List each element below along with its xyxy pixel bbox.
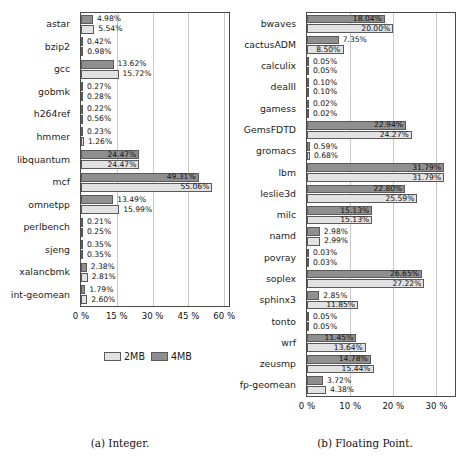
figure-root: astar4.98%5.54%bzip20.42%0.98%gcc13.62%1… xyxy=(0,0,473,468)
category-label-libquantum: libquantum xyxy=(0,154,75,166)
bar-4mb-omnetpp xyxy=(81,195,113,204)
category-label-leslie3d: leslie3d xyxy=(232,188,301,200)
category-label-cactusadm: cactusADM xyxy=(232,39,301,51)
value-label-2mb-dealii: 0.10% xyxy=(311,87,337,97)
bar-2mb-tonto xyxy=(307,322,309,331)
value-label-2mb-milc: 15.13% xyxy=(338,215,369,225)
bar-2mb-int-geomean xyxy=(81,295,87,304)
value-label-4mb-calculix: 0.05% xyxy=(311,57,337,67)
category-label-astar: astar xyxy=(0,18,75,30)
value-label-4mb-gobmk: 0.27% xyxy=(85,82,111,92)
value-label-2mb-leslie3d: 25.59% xyxy=(383,194,414,204)
bar-4mb-calculix xyxy=(307,57,309,66)
category-label-xalancbmk: xalancbmk xyxy=(0,266,75,278)
value-label-2mb-libquantum: 24.47% xyxy=(105,160,136,170)
category-label-fp-geomean: fp-geomean xyxy=(232,379,301,391)
value-label-4mb-gamess: 0.02% xyxy=(311,99,337,109)
x-tick-10: 10 % xyxy=(339,401,361,411)
category-label-sphinx3: sphinx3 xyxy=(232,294,301,306)
value-label-4mb-cactusadm: 7.35% xyxy=(341,35,367,45)
bar-2mb-hmmer xyxy=(81,137,84,146)
category-label-hmmer: hmmer xyxy=(0,131,75,143)
bar-2mb-calculix xyxy=(307,67,309,76)
value-label-2mb-gamess: 0.02% xyxy=(311,109,337,119)
value-label-2mb-bzip2: 0.98% xyxy=(85,47,111,57)
value-label-4mb-fp-geomean: 3.72% xyxy=(325,376,351,386)
bar-4mb-gamess xyxy=(307,100,309,109)
bar-4mb-gcc xyxy=(81,60,114,69)
category-label-gcc: gcc xyxy=(0,63,75,75)
bar-4mb-sjeng xyxy=(81,240,83,249)
value-label-2mb-wrf: 13.64% xyxy=(332,343,363,353)
bar-4mb-tonto xyxy=(307,312,309,321)
bar-2mb-povray xyxy=(307,258,309,267)
bar-2mb-astar xyxy=(81,25,94,34)
category-label-gemsfdtd: GemsFDTD xyxy=(232,124,301,136)
value-label-2mb-h264ref: 0.56% xyxy=(85,114,111,124)
value-label-2mb-int-geomean: 2.60% xyxy=(89,295,115,305)
value-label-2mb-zeusmp: 15.44% xyxy=(340,364,371,374)
bar-4mb-bzip2 xyxy=(81,37,83,46)
value-label-4mb-gromacs: 0.59% xyxy=(312,142,338,152)
value-label-2mb-calculix: 0.05% xyxy=(311,66,337,76)
bar-2mb-bzip2 xyxy=(81,47,83,56)
category-label-dealii: dealII xyxy=(232,81,301,93)
value-label-2mb-povray: 0.03% xyxy=(311,258,337,268)
value-label-4mb-sphinx3: 2.85% xyxy=(321,291,347,301)
caption-floating-point: (b) Floating Point. xyxy=(300,437,430,449)
bar-4mb-h264ref xyxy=(81,105,83,114)
value-label-2mb-xalancbmk: 2.81% xyxy=(90,272,116,282)
caption-integer: (a) Integer. xyxy=(60,437,180,449)
value-label-2mb-gcc: 15.72% xyxy=(121,69,152,79)
legend-item-2mb: 2MB xyxy=(104,351,145,362)
bar-4mb-dealii xyxy=(307,78,309,87)
chart-integer: astar4.98%5.54%bzip20.42%0.98%gcc13.62%1… xyxy=(0,0,232,430)
x-tick-20: 20 % xyxy=(382,401,404,411)
category-label-gobmk: gobmk xyxy=(0,86,75,98)
value-label-2mb-mcf: 55.06% xyxy=(178,182,209,192)
value-label-2mb-cactusadm: 8.50% xyxy=(314,45,340,55)
gridline xyxy=(224,13,225,306)
value-label-2mb-omnetpp: 15.99% xyxy=(121,205,152,215)
bar-2mb-sjeng xyxy=(81,250,83,259)
value-label-4mb-dealii: 0.10% xyxy=(311,78,337,88)
value-label-4mb-libquantum: 24.47% xyxy=(105,150,136,160)
value-label-2mb-gemsfdtd: 24.27% xyxy=(378,130,409,140)
x-tick-45: 45 % xyxy=(177,311,199,321)
category-label-bzip2: bzip2 xyxy=(0,41,75,53)
bar-2mb-xalancbmk xyxy=(81,273,88,282)
legend: 2MB 4MB xyxy=(104,351,192,362)
x-tick-30: 30 % xyxy=(142,311,164,321)
bar-4mb-perlbench xyxy=(81,218,83,227)
gridline xyxy=(393,13,394,396)
value-label-2mb-gobmk: 0.28% xyxy=(85,92,111,102)
value-label-4mb-zeusmp: 14.78% xyxy=(337,354,368,364)
bar-4mb-hmmer xyxy=(81,127,83,136)
category-label-calculix: calculix xyxy=(232,60,301,72)
value-label-4mb-hmmer: 0.23% xyxy=(85,127,111,137)
value-label-4mb-soplex: 26.65% xyxy=(388,269,419,279)
category-label-gamess: gamess xyxy=(232,103,301,115)
bar-2mb-omnetpp xyxy=(81,205,119,214)
category-label-int-geomean: int-geomean xyxy=(0,289,75,301)
value-label-4mb-milc: 15.13% xyxy=(338,206,369,216)
legend-swatch-4mb-icon xyxy=(151,352,168,361)
category-label-omnetpp: omnetpp xyxy=(0,199,75,211)
value-label-2mb-astar: 5.54% xyxy=(96,24,122,34)
value-label-4mb-astar: 4.98% xyxy=(95,14,121,24)
legend-label-4mb: 4MB xyxy=(171,351,192,362)
bar-4mb-astar xyxy=(81,15,93,24)
bar-2mb-fp-geomean xyxy=(307,386,326,395)
bar-2mb-dealii xyxy=(307,88,309,97)
bar-2mb-perlbench xyxy=(81,228,83,237)
value-label-2mb-perlbench: 0.25% xyxy=(85,227,111,237)
category-label-milc: milc xyxy=(232,209,301,221)
category-label-tonto: tonto xyxy=(232,316,301,328)
bar-4mb-int-geomean xyxy=(81,285,85,294)
category-label-povray: povray xyxy=(232,252,301,264)
value-label-4mb-lbm: 31.79% xyxy=(410,163,441,173)
value-label-2mb-hmmer: 1.26% xyxy=(86,137,112,147)
x-tick-0: 0 % xyxy=(73,311,89,321)
value-label-4mb-perlbench: 0.21% xyxy=(85,217,111,227)
category-label-lbm: lbm xyxy=(232,167,301,179)
